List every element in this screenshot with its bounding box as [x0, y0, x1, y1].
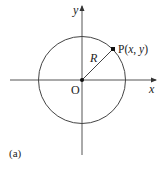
polar-coordinate-figure: y x O R P(x, y) (a) — [0, 0, 164, 175]
point-p-label: P(x, y) — [118, 43, 148, 56]
radius-label: R — [89, 51, 98, 65]
origin-dot — [80, 78, 84, 82]
origin-label: O — [71, 83, 80, 97]
diagram-canvas: y x O R P(x, y) (a) — [0, 0, 164, 175]
x-axis-label: x — [148, 82, 155, 96]
y-axis-label: y — [72, 3, 79, 17]
point-p-marker — [111, 47, 115, 51]
point-p-suffix: ) — [144, 43, 148, 56]
point-p-prefix: P( — [118, 43, 128, 56]
radius-line — [82, 49, 113, 80]
panel-label: (a) — [9, 147, 22, 160]
